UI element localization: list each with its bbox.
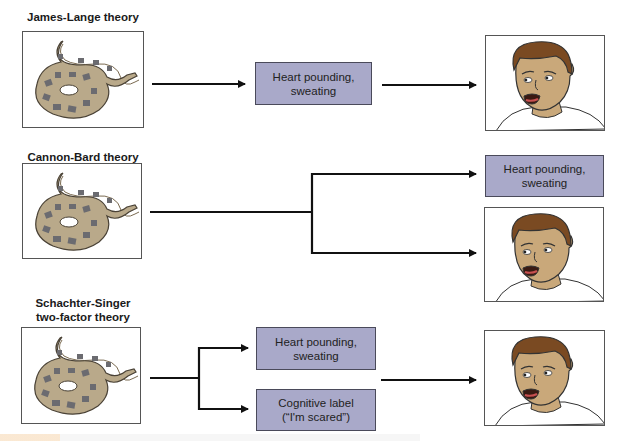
connector-arrows (0, 0, 622, 441)
cropped-caption-strip (0, 434, 420, 441)
